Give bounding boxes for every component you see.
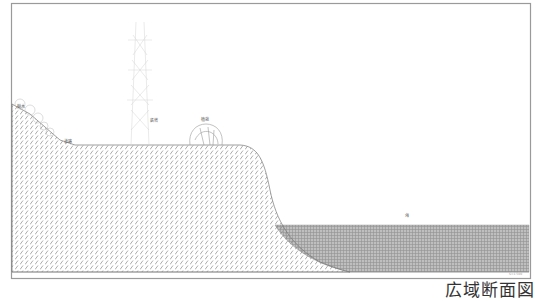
label-tower: 鉄塔 — [150, 117, 158, 123]
shrub-icon — [190, 124, 223, 145]
drawing-title: 広域断面図 — [445, 276, 535, 301]
tower-icon — [127, 22, 153, 145]
label-shrub: 植栽 — [201, 116, 209, 122]
label-water: 海 — [405, 212, 409, 218]
label-slope-trees: 樹木 — [17, 103, 25, 109]
label-path: 道路 — [64, 138, 72, 144]
ground-section — [12, 104, 350, 272]
